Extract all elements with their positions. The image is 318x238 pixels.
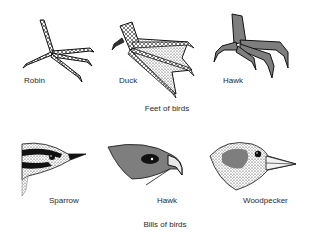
hawk-foot-label: Hawk — [223, 76, 243, 85]
bills-caption: Bills of birds — [143, 220, 186, 229]
duck-foot-label: Duck — [119, 76, 137, 85]
hawk-bill-label: Hawk — [157, 196, 177, 205]
robin-foot-label: Robin — [24, 76, 45, 85]
robin-foot-illustration — [18, 18, 98, 84]
feet-caption: Feet of birds — [145, 104, 189, 113]
sparrow-head-illustration — [18, 140, 88, 202]
woodpecker-head-illustration — [206, 140, 300, 196]
duck-foot-illustration — [110, 20, 200, 98]
hawk-head-illustration — [106, 141, 188, 197]
hawk-foot-illustration — [212, 12, 296, 82]
sparrow-bill-label: Sparrow — [49, 196, 79, 205]
woodpecker-bill-label: Woodpecker — [243, 196, 288, 205]
